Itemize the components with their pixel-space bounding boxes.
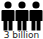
person-icon: [15, 1, 29, 31]
person-icon: [29, 1, 43, 31]
person-icon: [1, 1, 15, 31]
population-caption: 3 billion: [0, 30, 43, 39]
people-icon-group: [1, 1, 43, 31]
